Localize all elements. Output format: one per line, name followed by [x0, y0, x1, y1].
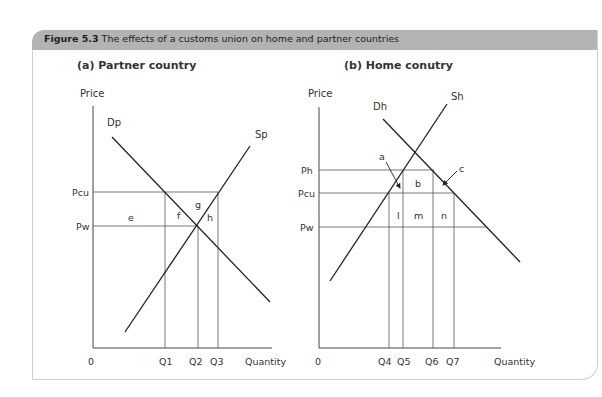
- panel-partner-country: (a) Partner country Price Dp Sp Pcu Pw e…: [72, 59, 286, 367]
- panel-a-supply-label: Sp: [255, 129, 268, 140]
- panel-home-country: (b) Home conutry Price Dh Sh Ph Pcu Pw a…: [298, 59, 535, 367]
- panel-b-arrow-c: [443, 171, 457, 185]
- panel-a-xlabel: Quantity: [245, 356, 286, 367]
- panel-a-area-h: h: [207, 212, 213, 223]
- panel-a-area-f: f: [177, 210, 181, 221]
- panel-a-title: (a) Partner country: [77, 59, 196, 72]
- panel-a-demand-curve: [112, 137, 270, 302]
- panel-a-area-e: e: [128, 212, 134, 223]
- panel-a-q3-label: Q3: [210, 356, 224, 367]
- panel-a-ylabel: Price: [80, 88, 104, 99]
- panel-b-supply-curve: [330, 104, 447, 281]
- panel-b-area-l: l: [397, 210, 400, 221]
- panel-b-area-c: c: [459, 163, 464, 174]
- panel-a-pcu-label: Pcu: [72, 187, 89, 198]
- panel-b-q5-label: Q5: [397, 356, 411, 367]
- panel-b-area-n: n: [441, 210, 447, 221]
- panel-a-origin: 0: [88, 356, 94, 367]
- panel-b-demand-curve: [383, 119, 520, 262]
- panel-a-q2-label: Q2: [189, 356, 203, 367]
- panel-a-demand-label: Dp: [107, 117, 121, 128]
- panel-b-arrow-a: [386, 162, 400, 188]
- panel-b-ph-label: Ph: [301, 165, 313, 176]
- panel-a-supply-curve: [125, 146, 250, 332]
- panel-b-title: (b) Home conutry: [344, 59, 453, 72]
- panel-b-pcu-label: Pcu: [298, 188, 315, 199]
- panel-b-q4-label: Q4: [378, 356, 392, 367]
- panel-b-ylabel: Price: [308, 88, 332, 99]
- panel-b-q7-label: Q7: [446, 356, 460, 367]
- panel-b-area-a: a: [379, 151, 385, 162]
- panel-b-xlabel: Quantity: [494, 356, 535, 367]
- panel-b-area-b: b: [415, 178, 421, 189]
- panel-b-pw-label: Pw: [300, 222, 314, 233]
- figure-diagram: (a) Partner country Price Dp Sp Pcu Pw e…: [0, 0, 602, 397]
- panel-b-demand-label: Dh: [373, 101, 387, 112]
- panel-b-supply-label: Sh: [451, 91, 464, 102]
- panel-b-q6-label: Q6: [425, 356, 439, 367]
- panel-a-area-g: g: [195, 199, 201, 210]
- panel-a-q1-label: Q1: [159, 356, 173, 367]
- panel-a-pw-label: Pw: [76, 221, 90, 232]
- panel-b-origin: 0: [315, 356, 321, 367]
- panel-b-area-m: m: [414, 210, 423, 221]
